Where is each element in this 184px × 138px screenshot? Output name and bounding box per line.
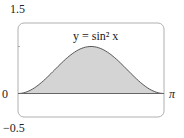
plot-area — [0, 0, 184, 138]
curve-annotation: y = sin² x — [73, 30, 118, 42]
area-under-curve — [18, 47, 164, 94]
x-tick-label-pi: π — [169, 88, 175, 100]
y-tick-label-top: 1.5 — [10, 3, 25, 15]
y-tick-label-zero: 0 — [2, 88, 8, 100]
y-tick-label-bottom: −0.5 — [3, 122, 25, 134]
